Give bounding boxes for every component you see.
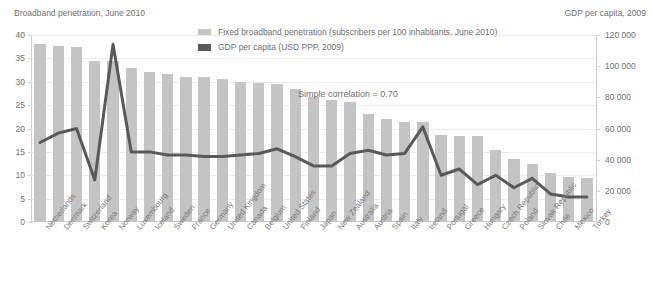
right-tick-mark [596, 66, 600, 67]
left-tick-label: 25 [6, 101, 25, 110]
right-axis-title: GDP per capita, 2009 [564, 8, 646, 18]
left-tick-label: 15 [6, 148, 25, 157]
correlation-annotation: Simple correlation = 0.70 [298, 89, 398, 99]
left-tick-mark [28, 222, 32, 223]
right-tick-mark [596, 160, 600, 161]
gdp-line-path [40, 44, 587, 197]
left-tick-label: 10 [6, 171, 25, 180]
left-tick-label: 35 [6, 54, 25, 63]
right-tick-mark [596, 129, 600, 130]
right-tick-label: 80 000 [605, 93, 631, 102]
right-tick-label: 40 000 [605, 156, 631, 165]
left-tick-label: 40 [6, 31, 25, 40]
left-tick-label: 0 [6, 218, 25, 227]
left-tick-label: 5 [6, 195, 25, 204]
left-axis-title: Broadband penetration, June 2010 [14, 8, 145, 18]
right-tick-mark [596, 97, 600, 98]
right-tick-mark [596, 191, 600, 192]
left-tick-label: 30 [6, 78, 25, 87]
right-tick-label: 60 000 [605, 125, 631, 134]
chart-container: Broadband penetration, June 2010 GDP per… [0, 0, 652, 297]
right-tick-mark [596, 35, 600, 36]
left-tick-label: 20 [6, 125, 25, 134]
right-tick-label: 120 000 [605, 31, 636, 40]
right-tick-label: 20 000 [605, 187, 631, 196]
right-tick-label: 100 000 [605, 62, 636, 71]
